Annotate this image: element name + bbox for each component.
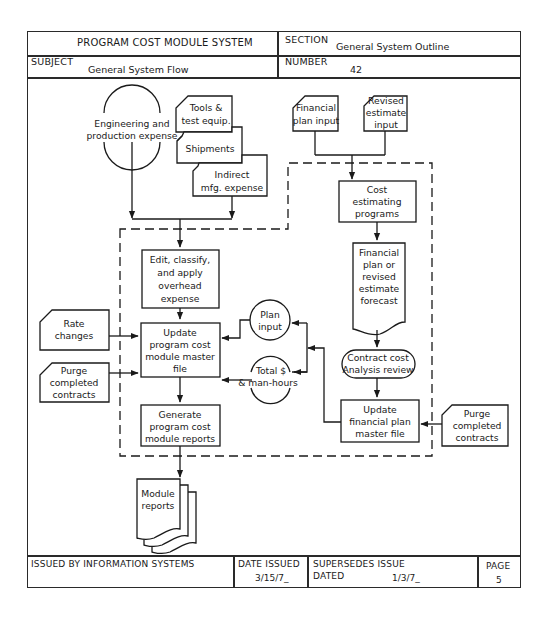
svg-text:Rate: Rate xyxy=(63,318,84,329)
rei-line-1: Revised xyxy=(368,95,404,106)
svg-text:estimate: estimate xyxy=(366,107,407,118)
svg-text:input: input xyxy=(258,321,282,332)
rei-line-3: input xyxy=(374,119,398,130)
cost-line-1: Cost xyxy=(367,184,388,195)
svg-text:and apply: and apply xyxy=(157,267,203,278)
svg-text:Plan: Plan xyxy=(260,309,280,320)
svg-text:production expense: production expense xyxy=(87,130,178,141)
purge-left-line-3: contracts xyxy=(53,389,96,400)
svg-text:program cost: program cost xyxy=(149,339,211,350)
svg-text:completed: completed xyxy=(453,420,502,431)
issued-by: ISSUED BY INFORMATION SYSTEMS xyxy=(31,559,195,569)
svg-text:financial plan: financial plan xyxy=(349,416,411,427)
svg-text:master file: master file xyxy=(355,428,405,439)
plan-input-connector xyxy=(250,300,290,340)
svg-text:programs: programs xyxy=(355,208,399,219)
svg-text:estimate: estimate xyxy=(359,283,400,294)
tools-line-1: Tools & xyxy=(189,102,223,113)
purge-right-line-2: completed xyxy=(453,420,502,431)
svg-text:revised: revised xyxy=(362,271,396,282)
edit-line-4: expense xyxy=(161,293,200,304)
svg-text:forecast: forecast xyxy=(360,295,398,306)
update-pcm-line-2: program cost xyxy=(149,339,211,350)
svg-text:Purge: Purge xyxy=(61,365,88,376)
svg-text:module master: module master xyxy=(145,351,215,362)
svg-text:Generate: Generate xyxy=(159,409,202,420)
forecast-line-5: forecast xyxy=(360,295,398,306)
svg-text:Total $: Total $ xyxy=(255,365,286,376)
svg-text:Module: Module xyxy=(141,488,175,499)
svg-text:overhead: overhead xyxy=(158,280,201,291)
svg-text:Shipments: Shipments xyxy=(186,143,235,154)
purge-left-line-2: completed xyxy=(50,377,99,388)
svg-text:Revised: Revised xyxy=(368,95,404,106)
dated-label: DATED xyxy=(313,571,344,581)
supersedes-label: SUPERSEDES ISSUE xyxy=(313,559,405,569)
generate-line-3: module reports xyxy=(145,433,215,444)
svg-text:Update: Update xyxy=(163,327,197,338)
svg-text:Contract cost: Contract cost xyxy=(347,352,409,363)
svg-text:Analysis review: Analysis review xyxy=(342,364,414,375)
svg-text:Purge: Purge xyxy=(464,408,491,419)
engineering-line-1: Engineering and xyxy=(94,118,169,129)
dated-value: 1/3/7_ xyxy=(392,573,420,583)
svg-text:Indirect: Indirect xyxy=(215,169,250,180)
svg-text:file: file xyxy=(173,363,187,374)
svg-text:estimating: estimating xyxy=(353,196,402,207)
svg-text:input: input xyxy=(374,119,398,130)
page-label: PAGE xyxy=(486,561,510,571)
purge-left-line-1: Purge xyxy=(61,365,88,376)
svg-text:plan or: plan or xyxy=(363,259,395,270)
forecast-line-2: plan or xyxy=(363,259,395,270)
forecast-line-4: estimate xyxy=(359,283,400,294)
plan-input-line-2: input xyxy=(258,321,282,332)
footer-divider-3 xyxy=(477,555,479,588)
generate-line-1: Generate xyxy=(159,409,202,420)
purge-right-line-1: Purge xyxy=(464,408,491,419)
svg-text:mfg. expense: mfg. expense xyxy=(201,182,264,193)
svg-text:& man-hours: & man-hours xyxy=(238,377,298,388)
update-pcm-line-3: module master xyxy=(145,351,215,362)
update-pcm-line-4: file xyxy=(173,363,187,374)
tools-line-2: test equip. xyxy=(181,115,230,126)
total-line-1: Total $ xyxy=(255,365,286,376)
date-issued-label: DATE ISSUED xyxy=(238,559,300,569)
svg-text:completed: completed xyxy=(50,377,99,388)
svg-text:reports: reports xyxy=(142,500,175,511)
update-fin-line-1: Update xyxy=(363,404,397,415)
footer-top-divider xyxy=(27,555,521,557)
footer-divider-1 xyxy=(233,555,235,588)
svg-text:expense: expense xyxy=(161,293,200,304)
date-issued-value: 3/15/7_ xyxy=(255,573,288,583)
module-reports-line-2: reports xyxy=(142,500,175,511)
total-line-2: & man-hours xyxy=(238,377,298,388)
indirect-line-2: mfg. expense xyxy=(201,182,264,193)
svg-text:program cost: program cost xyxy=(149,421,211,432)
rate-line-2: changes xyxy=(55,330,94,341)
svg-text:Tools &: Tools & xyxy=(189,102,223,113)
indirect-line-1: Indirect xyxy=(215,169,250,180)
update-pcm-line-1: Update xyxy=(163,327,197,338)
svg-text:contracts: contracts xyxy=(456,432,499,443)
rate-line-1: Rate xyxy=(63,318,84,329)
update-fin-line-2: financial plan xyxy=(349,416,411,427)
page-value: 5 xyxy=(496,575,502,585)
svg-text:module reports: module reports xyxy=(145,433,215,444)
footer-divider-2 xyxy=(307,555,309,588)
engineering-line-2: production expense xyxy=(87,130,178,141)
shipments-label: Shipments xyxy=(186,143,235,154)
fpi-line-1: Financial xyxy=(296,102,336,113)
svg-text:Financial: Financial xyxy=(296,102,336,113)
cost-line-2: estimating xyxy=(353,196,402,207)
svg-text:Update: Update xyxy=(363,404,397,415)
svg-text:changes: changes xyxy=(55,330,94,341)
svg-text:contracts: contracts xyxy=(53,389,96,400)
edit-line-1: Edit, classify, xyxy=(150,254,211,265)
svg-text:Engineering and: Engineering and xyxy=(94,118,169,129)
svg-text:Cost: Cost xyxy=(367,184,388,195)
cost-line-3: programs xyxy=(355,208,399,219)
review-line-2: Analysis review xyxy=(342,364,414,375)
review-line-1: Contract cost xyxy=(347,352,409,363)
svg-text:Financial: Financial xyxy=(359,247,399,258)
module-reports-line-1: Module xyxy=(141,488,175,499)
